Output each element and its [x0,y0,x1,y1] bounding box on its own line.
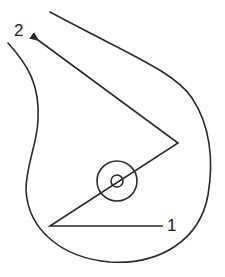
breast-outline-left [8,12,211,262]
areola-circle [97,161,137,201]
breast-exam-diagram [0,0,225,277]
label-start-1: 1 [167,217,176,234]
label-end-2: 2 [14,22,23,39]
